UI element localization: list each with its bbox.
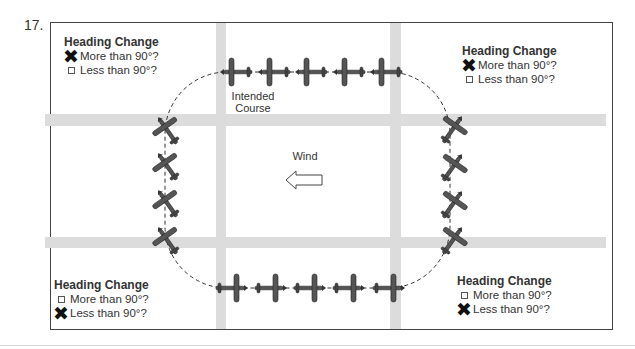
heading-change-top-right: Heading Change ✖ More than 90°? Less tha… <box>462 44 557 86</box>
option-label: More than 90°? <box>473 288 552 302</box>
option-label: Less than 90°? <box>70 306 147 320</box>
intended-course-label-line2: Course <box>228 102 278 114</box>
planes-bottom-leg <box>216 274 405 302</box>
heading-change-bottom-right: Heading Change More than 90°? ✖ Less tha… <box>457 274 552 316</box>
check-x-icon: ✖ <box>64 49 78 63</box>
heading-change-bottom-left: Heading Change More than 90°? ✖ Less tha… <box>54 278 149 320</box>
checkbox-icon <box>462 76 476 83</box>
intended-course-label: Intended Course <box>228 90 278 114</box>
airplane-icon <box>295 58 327 86</box>
checkbox-icon <box>64 67 78 74</box>
wind-label: Wind <box>290 150 320 162</box>
airplane-icon <box>294 274 326 302</box>
airplane-icon <box>255 274 287 302</box>
option-label: Less than 90°? <box>80 63 157 77</box>
option-label: More than 90°? <box>80 49 159 63</box>
wind-arrow-icon <box>286 171 322 189</box>
check-x-icon: ✖ <box>54 306 68 320</box>
airplane-icon <box>147 182 188 224</box>
planes-top-leg <box>220 58 402 86</box>
airplane-icon <box>333 274 365 302</box>
road-vertical-left <box>216 23 226 329</box>
airplane-icon <box>147 145 188 187</box>
heading-change-top-left: Heading Change ✖ More than 90°? Less tha… <box>64 35 159 77</box>
check-x-icon: ✖ <box>462 58 476 72</box>
check-x-icon: ✖ <box>457 302 471 316</box>
road-horizontal-top <box>45 114 606 126</box>
airplane-icon <box>258 58 290 86</box>
option-less-than-90[interactable]: ✖ Less than 90°? <box>54 306 149 320</box>
option-label: Less than 90°? <box>478 72 555 86</box>
legend-title: Heading Change <box>54 278 149 292</box>
option-more-than-90[interactable]: ✖ More than 90°? <box>64 49 159 63</box>
airplane-icon <box>432 146 473 188</box>
airplane-icon <box>333 58 365 86</box>
option-label: More than 90°? <box>478 58 557 72</box>
option-label: Less than 90°? <box>473 302 550 316</box>
airplane-icon <box>432 183 473 225</box>
option-label: More than 90°? <box>70 292 149 306</box>
road-horizontal-bottom <box>45 237 606 248</box>
option-less-than-90[interactable]: ✖ Less than 90°? <box>457 302 552 316</box>
option-more-than-90[interactable]: ✖ More than 90°? <box>462 58 557 72</box>
legend-title: Heading Change <box>457 274 552 288</box>
intended-course-label-line1: Intended <box>228 90 278 102</box>
